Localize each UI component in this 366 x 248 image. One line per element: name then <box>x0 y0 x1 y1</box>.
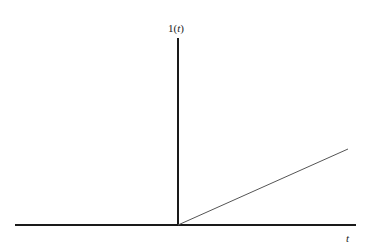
y-axis-label: 1(t) <box>168 22 184 35</box>
x-axis-label: t <box>346 232 350 244</box>
ramp-line <box>178 149 348 225</box>
ramp-diagram: 1(t) t <box>0 0 366 248</box>
